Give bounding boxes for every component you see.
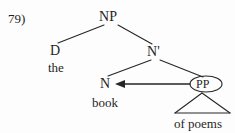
node-label-d: D: [50, 44, 60, 58]
pp-triangle-annotation: [175, 93, 230, 113]
triangle-left-side: [175, 93, 202, 113]
branch-np-to-d: [58, 25, 104, 43]
node-label-n: N: [100, 77, 110, 91]
item-number: 79): [8, 12, 25, 25]
terminal-label-book: book: [92, 96, 118, 109]
terminal-label-the: the: [48, 61, 64, 74]
triangle-right-side: [202, 93, 230, 113]
branch-nbar-to-n: [108, 60, 151, 76]
node-label-n-bar: N': [147, 45, 160, 59]
syntax-tree-figure: 79) NP D N' N PP the book of poems: [0, 0, 235, 133]
branch-np-to-nbar: [118, 25, 152, 44]
movement-arrow-head: [115, 80, 125, 88]
node-label-pp: PP: [196, 78, 210, 90]
tree-drawing-canvas: [0, 0, 235, 133]
node-label-np: NP: [99, 10, 117, 24]
movement-arrow: [115, 80, 190, 88]
branch-nbar-to-pp: [160, 60, 203, 77]
terminal-label-of-poems: of poems: [174, 117, 222, 130]
